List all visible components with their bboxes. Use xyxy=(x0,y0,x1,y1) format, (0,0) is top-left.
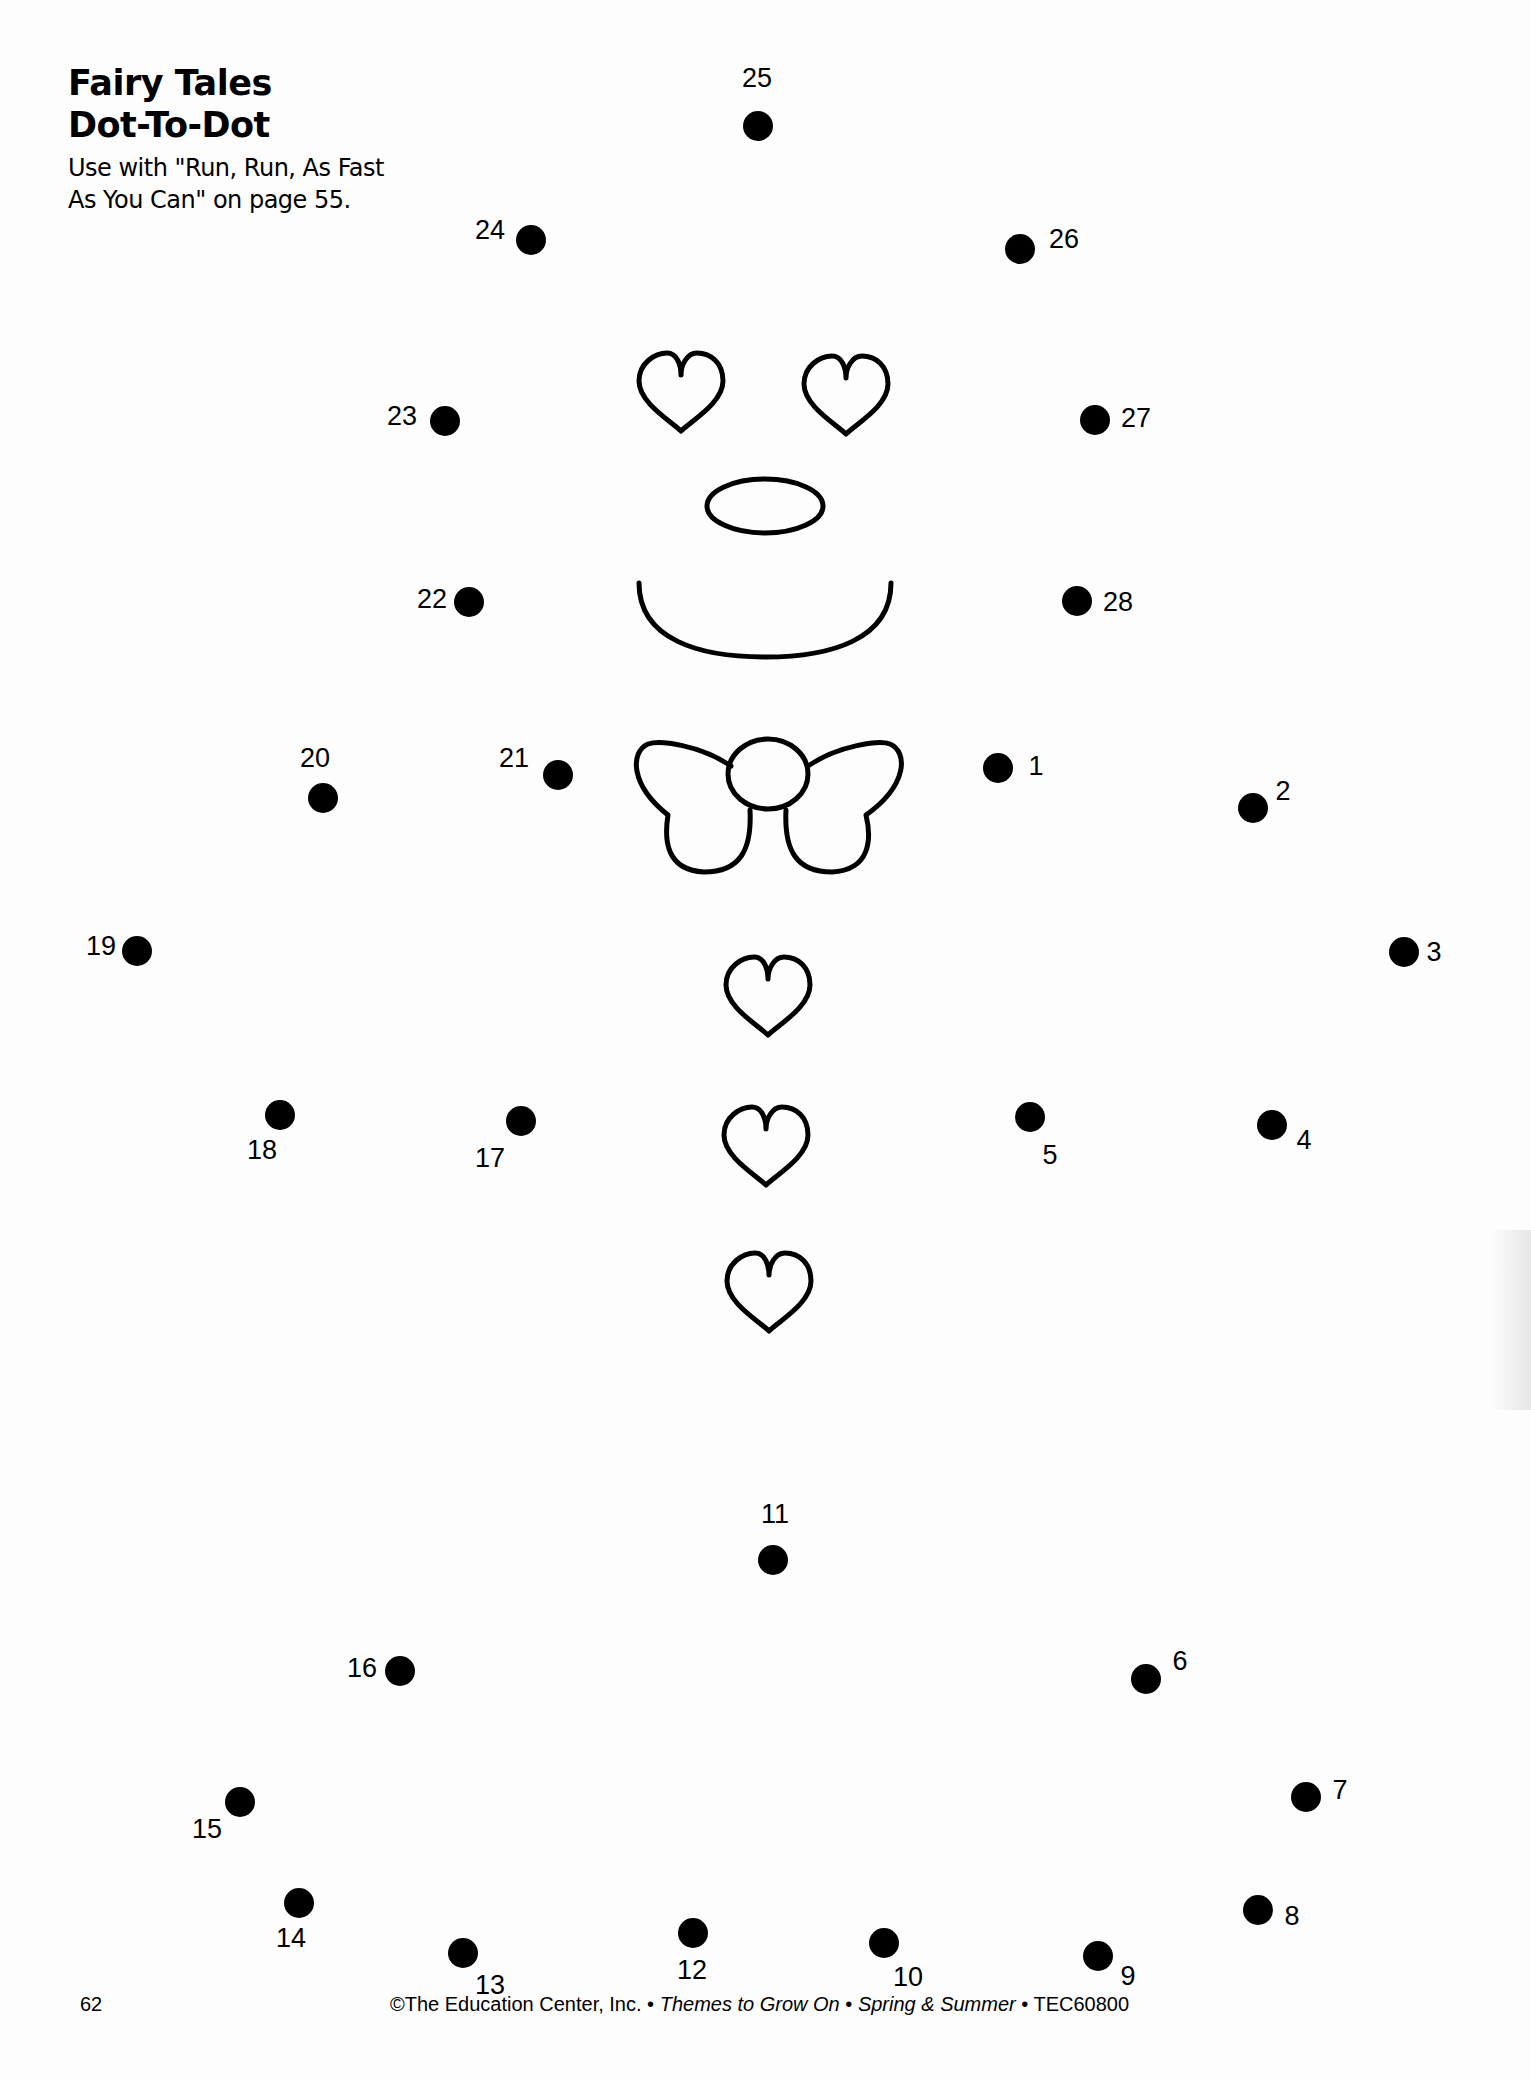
gingerbread-face-art xyxy=(0,0,1531,2081)
dot-point-8 xyxy=(1243,1895,1273,1925)
dot-label-21: 21 xyxy=(499,743,529,773)
footer-separator: • xyxy=(845,1993,852,2015)
dot-label-15: 15 xyxy=(192,1814,222,1844)
dot-point-1 xyxy=(983,753,1013,783)
dot-label-18: 18 xyxy=(247,1135,277,1165)
dot-point-24 xyxy=(516,225,546,255)
dot-label-20: 20 xyxy=(300,743,330,773)
dot-point-4 xyxy=(1257,1110,1287,1140)
dot-label-24: 24 xyxy=(475,215,505,245)
dot-point-9 xyxy=(1083,1941,1113,1971)
dot-label-19: 19 xyxy=(86,931,116,961)
right-eye-heart-icon xyxy=(804,356,888,434)
dot-label-22: 22 xyxy=(417,584,447,614)
dot-point-22 xyxy=(454,587,484,617)
dot-label-17: 17 xyxy=(475,1143,505,1173)
dot-point-19 xyxy=(122,936,152,966)
dot-label-4: 4 xyxy=(1296,1125,1311,1155)
dot-label-9: 9 xyxy=(1120,1961,1135,1991)
dot-point-15 xyxy=(225,1787,255,1817)
dot-point-25 xyxy=(743,111,773,141)
dot-label-11: 11 xyxy=(761,1499,789,1529)
dot-point-13 xyxy=(448,1938,478,1968)
left-eye-heart-icon xyxy=(639,353,723,431)
footer-season: Spring & Summer xyxy=(858,1993,1016,2015)
dot-label-7: 7 xyxy=(1332,1775,1347,1805)
dot-point-3 xyxy=(1389,937,1419,967)
dot-label-2: 2 xyxy=(1275,776,1290,806)
dot-point-11 xyxy=(758,1545,788,1575)
dot-point-17 xyxy=(506,1106,536,1136)
dot-point-6 xyxy=(1131,1664,1161,1694)
dot-point-5 xyxy=(1015,1102,1045,1132)
footer-credit: ©The Education Center, Inc. • Themes to … xyxy=(390,1993,1129,2016)
dot-label-6: 6 xyxy=(1172,1646,1187,1676)
page-edge-shadow xyxy=(1491,1230,1531,1410)
dot-label-16: 16 xyxy=(347,1653,377,1683)
dot-label-1: 1 xyxy=(1028,751,1043,781)
dot-point-12 xyxy=(678,1918,708,1948)
dot-point-27 xyxy=(1080,405,1110,435)
dot-point-20 xyxy=(308,783,338,813)
page-number: 62 xyxy=(80,1993,102,2016)
dot-label-26: 26 xyxy=(1049,224,1079,254)
smile-mouth-icon xyxy=(639,583,891,657)
dot-label-14: 14 xyxy=(276,1923,306,1953)
footer-series: Themes to Grow On xyxy=(660,1993,840,2015)
footer-copyright: ©The Education Center, Inc. • xyxy=(390,1993,654,2015)
dot-label-10: 10 xyxy=(893,1962,923,1992)
nose-oval-icon xyxy=(707,479,823,533)
dot-point-14 xyxy=(284,1888,314,1918)
dot-point-2 xyxy=(1238,793,1268,823)
button-heart-icon-1 xyxy=(726,957,810,1035)
button-heart-icon-2 xyxy=(724,1107,808,1185)
dot-label-27: 27 xyxy=(1121,403,1151,433)
footer-code: • TEC60800 xyxy=(1021,1993,1129,2015)
dot-point-10 xyxy=(869,1928,899,1958)
dot-label-28: 28 xyxy=(1103,587,1133,617)
dot-label-12: 12 xyxy=(677,1955,707,1985)
bowtie-icon xyxy=(636,739,901,872)
dot-point-28 xyxy=(1062,586,1092,616)
dot-point-26 xyxy=(1005,234,1035,264)
dot-point-21 xyxy=(543,760,573,790)
dot-label-8: 8 xyxy=(1284,1901,1299,1931)
dot-point-16 xyxy=(385,1656,415,1686)
dot-point-23 xyxy=(430,406,460,436)
dot-label-25: 25 xyxy=(742,63,772,93)
dot-point-7 xyxy=(1291,1782,1321,1812)
dot-point-18 xyxy=(265,1100,295,1130)
button-heart-icon-3 xyxy=(727,1253,811,1331)
dot-label-5: 5 xyxy=(1042,1140,1057,1170)
dot-label-3: 3 xyxy=(1426,937,1441,967)
dot-label-23: 23 xyxy=(387,401,417,431)
